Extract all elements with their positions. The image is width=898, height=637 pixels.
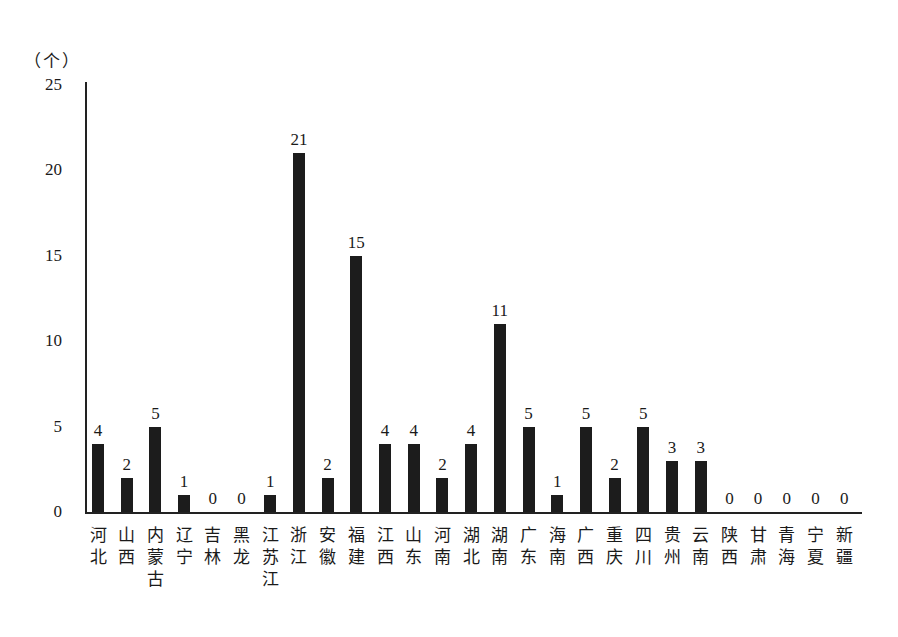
x-category-label: 广西 [574,524,598,568]
bar [264,495,276,512]
x-category-label: 吉林 [201,524,225,568]
x-category-label: 福建 [344,524,368,568]
x-category-label: 江西 [373,524,397,568]
x-category-label: 海南 [545,524,569,568]
x-category-label: 江苏江 [258,524,282,590]
bar [494,324,506,512]
bar [637,427,649,512]
x-category-label: 内蒙古 [143,524,167,590]
y-tick-label: 10 [22,332,62,349]
bar-value-label: 0 [714,490,744,507]
y-tick-label: 5 [22,418,62,435]
bar-value-label: 4 [399,422,429,439]
x-category-label: 新疆 [832,524,856,568]
bar [465,444,477,512]
x-category-label: 湖北 [459,524,483,568]
bar [379,444,391,512]
x-category-label: 广东 [517,524,541,568]
bar [551,495,563,512]
bar [666,461,678,512]
bar-value-label: 3 [686,439,716,456]
bar-value-label: 0 [801,490,831,507]
x-axis-line [85,512,862,514]
x-category-label: 湖南 [488,524,512,568]
y-tick-label: 25 [22,76,62,93]
y-axis-unit-label: （个） [24,47,81,72]
bar [436,478,448,512]
bar-value-label: 0 [227,490,257,507]
x-category-label: 陕西 [717,524,741,568]
x-category-label: 甘肃 [746,524,770,568]
bar-value-label: 5 [571,405,601,422]
bar-value-label: 5 [628,405,658,422]
bar [408,444,420,512]
bar-value-label: 11 [485,302,515,319]
x-category-label: 重庆 [603,524,627,568]
bar [322,478,334,512]
bar-value-label: 3 [657,439,687,456]
bar [523,427,535,512]
bar [695,461,707,512]
bar-value-label: 5 [140,405,170,422]
x-category-label: 浙江 [287,524,311,568]
x-category-label: 宁夏 [804,524,828,568]
bar [580,427,592,512]
x-category-label: 辽宁 [172,524,196,568]
bar [149,427,161,512]
bar-chart: （个） 0510152025 4251001212154424115152533… [0,0,898,637]
bar-value-label: 0 [198,490,228,507]
bar-value-label: 0 [829,490,859,507]
bar [350,256,362,512]
x-category-label: 安徽 [316,524,340,568]
bar [121,478,133,512]
bar-value-label: 2 [427,456,457,473]
bar-value-label: 4 [370,422,400,439]
bar-value-label: 15 [341,234,371,251]
bar-value-label: 2 [600,456,630,473]
bar-value-label: 5 [514,405,544,422]
bar-value-label: 2 [112,456,142,473]
y-axis-line [85,82,87,513]
y-tick-label: 0 [22,503,62,520]
y-tick-label: 20 [22,161,62,178]
bar [293,153,305,512]
bar [92,444,104,512]
x-category-label: 河北 [86,524,110,568]
x-category-label: 四川 [631,524,655,568]
x-category-label: 贵州 [660,524,684,568]
x-category-label: 山东 [402,524,426,568]
bar [609,478,621,512]
y-tick-label: 15 [22,247,62,264]
x-category-label: 青海 [775,524,799,568]
bar [178,495,190,512]
x-category-label: 河南 [430,524,454,568]
bar-value-label: 0 [772,490,802,507]
bar-value-label: 0 [743,490,773,507]
bar-value-label: 1 [255,473,285,490]
bar-value-label: 1 [542,473,572,490]
bar-value-label: 2 [313,456,343,473]
bar-value-label: 1 [169,473,199,490]
x-category-label: 黑龙 [230,524,254,568]
bar-value-label: 21 [284,131,314,148]
x-category-label: 山西 [115,524,139,568]
x-category-label: 云南 [689,524,713,568]
bar-value-label: 4 [83,422,113,439]
bar-value-label: 4 [456,422,486,439]
